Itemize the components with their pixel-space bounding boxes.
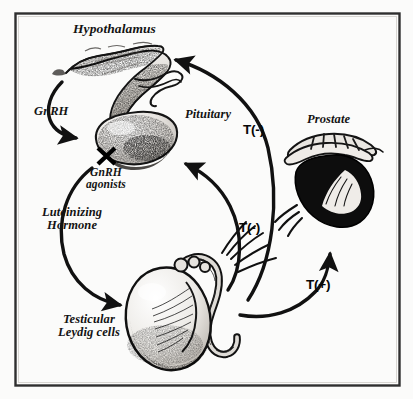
label-testicular-leydig-cells: Testicular Leydig cells — [58, 313, 120, 340]
label-t-negative-hypothalamus: T(-) — [243, 123, 264, 137]
label-pituitary: Pituitary — [185, 108, 231, 121]
label-t-negative-pituitary: T(-) — [239, 221, 260, 235]
label-hypothalamus: Hypothalamus — [73, 22, 156, 36]
label-luteinizing-hormone: Luteinizing Hormone — [42, 206, 102, 233]
label-t-positive: T(+) — [306, 278, 330, 292]
label-gnrh-agonists: GnRH agonists — [86, 166, 126, 190]
label-gnrh: GnRH — [34, 105, 68, 118]
label-prostate: Prostate — [307, 113, 350, 126]
diagram-figure: Hypothalamus Pituitary Prostate GnRH GnR… — [0, 0, 413, 399]
